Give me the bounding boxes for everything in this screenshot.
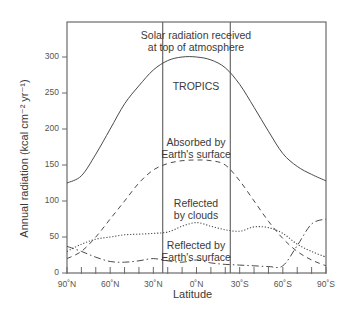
annotation-solar: Solar radiation received at top of atmos… bbox=[136, 29, 256, 53]
x-tick-label: 90˚S bbox=[313, 279, 339, 289]
y-tick-label: 50 bbox=[50, 231, 59, 241]
annotation-clouds: Reflected by clouds bbox=[166, 197, 226, 221]
y-tick-label: 300 bbox=[45, 51, 59, 61]
annotation-tropics-text: TROPICS bbox=[166, 80, 226, 92]
x-tick-label: 30˚S bbox=[227, 279, 253, 289]
x-tick-label: 60˚N bbox=[97, 279, 123, 289]
annotation-surface-line2: Earth's surface bbox=[151, 251, 241, 263]
x-tick-label: 90˚N bbox=[54, 279, 80, 289]
x-axis-label: Latitude bbox=[173, 288, 212, 300]
x-tick-label: 60˚S bbox=[270, 279, 296, 289]
annotation-solar-line1: Solar radiation received bbox=[136, 29, 256, 41]
annotation-surface-line1: Reflected by bbox=[151, 239, 241, 251]
annotation-absorbed: Absorbed by Earth's surface bbox=[151, 136, 241, 160]
solar-curve bbox=[67, 57, 326, 183]
annotation-tropics: TROPICS bbox=[166, 80, 226, 92]
y-axis-label: Annual radiation (kcal cm⁻² yr⁻¹) bbox=[18, 79, 31, 239]
y-tick-label: 0 bbox=[54, 267, 59, 277]
annotation-absorbed-line1: Absorbed by bbox=[151, 136, 241, 148]
annotation-clouds-line2: by clouds bbox=[166, 209, 226, 221]
y-tick-label: 100 bbox=[45, 195, 59, 205]
annotation-surface: Reflected by Earth's surface bbox=[151, 239, 241, 263]
y-tick-label: 200 bbox=[45, 123, 59, 133]
annotation-clouds-line1: Reflected bbox=[166, 197, 226, 209]
annotation-solar-line2: at top of atmosphere bbox=[136, 41, 256, 53]
x-tick-label: 30˚N bbox=[140, 279, 166, 289]
y-tick-label: 250 bbox=[45, 87, 59, 97]
y-tick-label: 150 bbox=[45, 159, 59, 169]
annotation-absorbed-line2: Earth's surface bbox=[151, 148, 241, 160]
